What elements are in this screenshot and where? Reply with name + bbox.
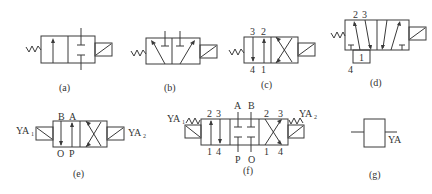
spring-icon [229,49,244,55]
port-label: 1 [264,146,269,157]
svg-text:2: 2 [143,133,146,139]
coil-icon [364,119,385,147]
panel-g: YA (g) [351,119,402,181]
port-label: 4 [250,64,255,75]
port-label: 3 [362,9,367,20]
caption-d: (d) [370,77,382,89]
flow-arrow-icon [153,42,165,64]
svg-text:2: 2 [314,114,317,120]
solenoid-label: YA [128,127,142,138]
panel-f: YA 1 YA 2 2 3 1 4 [167,100,317,177]
solenoid-label: YA [167,113,181,124]
port-label: 2 [261,26,266,37]
port-label: 1 [359,52,364,63]
svg-text:1: 1 [182,119,185,125]
port-label: A [69,111,77,122]
port-label: O [57,148,64,159]
panel-d: 2 3 1 4 (d) [331,9,426,89]
spring-icon [331,32,345,38]
valve-body [201,119,288,145]
port-label: 1 [207,146,212,157]
valve-symbols-diagram: (a) (b) 3 [0,0,432,194]
caption-g: (g) [369,169,381,181]
port-label: P [235,154,241,165]
port-label: 2 [207,108,212,119]
port-label: 2 [353,9,358,20]
port-label: 4 [348,64,353,75]
flow-arrow-icon [365,20,370,48]
flow-arrow-icon [355,23,360,50]
caption-a: (a) [59,82,70,94]
solenoid-label: YA [299,108,313,119]
port-label: B [248,100,255,111]
port-label: P [69,148,75,159]
spring-icon [186,118,200,124]
flow-arrow-icon [383,20,387,48]
port-label: O [248,154,255,165]
caption-e: (e) [73,168,84,180]
solenoid-label: YA [16,125,30,136]
flow-arrow-icon [180,42,193,64]
port-label: 4 [216,146,221,157]
port-label: 4 [278,146,283,157]
panel-b: (b) [131,31,217,94]
port-label: 3 [278,108,283,119]
port-label: 2 [264,108,269,119]
port-label: 1 [261,64,266,75]
flow-arrow-icon [391,23,399,50]
port-label: 3 [250,26,255,37]
caption-c: (c) [261,79,272,91]
panel-a: (a) [26,28,112,94]
panel-e: YA 1 YA 2 B A O P (e) [16,111,146,180]
port-label: A [234,100,242,111]
spring-icon [131,50,146,56]
port-label: 3 [216,108,221,119]
port-label: B [58,111,65,122]
svg-text:1: 1 [31,131,34,137]
caption-b: (b) [164,82,176,94]
caption-f: (f) [243,165,253,177]
coil-label: YA [388,134,402,145]
spring-icon [26,46,41,52]
panel-c: 3 2 4 1 (c) [229,26,315,91]
